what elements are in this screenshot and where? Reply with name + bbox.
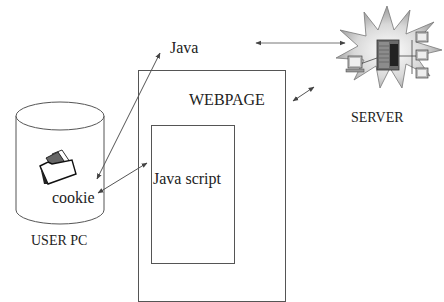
javascript-box	[151, 125, 235, 264]
webpage-label: WEBPAGE	[189, 92, 265, 108]
cookie-label: cookie	[52, 190, 95, 206]
arrow-webpage-server	[293, 87, 314, 101]
server-network-burst-icon	[330, 0, 444, 90]
java-label: Java	[170, 40, 198, 56]
server-label: SERVER	[351, 111, 404, 125]
javascript-label: Java script	[153, 171, 221, 187]
user-pc-label: USER PC	[31, 234, 87, 248]
folder-icon	[38, 148, 82, 188]
